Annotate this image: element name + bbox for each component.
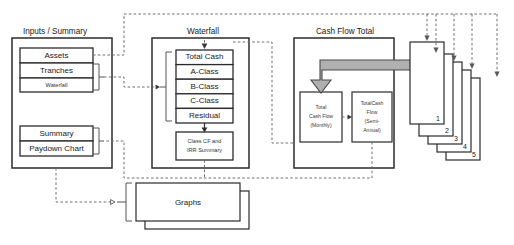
- label-tcf-semi-line3: (Semi-: [365, 118, 380, 124]
- label-tcf-monthly-line3: (Monthly): [310, 122, 332, 128]
- group-title-cash-flow-total: Cash Flow Total: [316, 27, 374, 36]
- stack-number-5: 5: [472, 151, 476, 158]
- group-inputs-summary[interactable]: Inputs / Summary Assets Tranches Waterfa…: [12, 27, 112, 168]
- stack-number-3: 3: [454, 135, 458, 142]
- label-class-cf-irr-line2: IRR Summary: [187, 147, 222, 153]
- arrowhead-rail-drop-1: [424, 36, 429, 41]
- group-title-waterfall: Waterfall: [187, 27, 219, 36]
- label-tcf-semi-line1: TotalCash: [361, 100, 384, 106]
- group-graphs[interactable]: Graphs: [111, 183, 249, 229]
- arrowhead-rail-drop-4: [469, 64, 474, 69]
- label-tcf-semi-line2: Flow: [367, 109, 378, 115]
- label-b-class: B-Class: [190, 82, 218, 91]
- label-a-class: A-Class: [190, 67, 218, 76]
- group-waterfall[interactable]: Waterfall Total Cash A-Class B-Class C-C…: [152, 27, 249, 168]
- group-cash-flow-total[interactable]: Cash Flow Total Total Cash Flow (Monthly…: [294, 27, 394, 168]
- connector-inputs-to-graphs: [56, 168, 110, 202]
- bracket-graphs: [117, 183, 132, 221]
- label-paydown-chart: Paydown Chart: [29, 144, 84, 153]
- label-total-cash: Total Cash: [186, 52, 224, 61]
- label-tcf-monthly-line1: Total: [316, 104, 327, 110]
- scenario-stack[interactable]: 5 4 3 2 1: [410, 42, 480, 160]
- label-class-cf-irr-line1: Class CF and: [188, 138, 222, 144]
- stack-sheet-1[interactable]: [410, 42, 444, 124]
- label-c-class: C-Class: [190, 96, 218, 105]
- label-assets: Assets: [44, 51, 68, 60]
- flow-diagram: Inputs / Summary Assets Tranches Waterfa…: [0, 0, 514, 245]
- label-residual: Residual: [189, 111, 220, 120]
- label-tcf-semi-line4: Annual): [363, 127, 381, 133]
- box-class-cf-irr-summary[interactable]: [176, 132, 233, 160]
- arrowhead-rail-drop-5: [494, 72, 499, 77]
- label-waterfall-input: Waterfall: [46, 82, 68, 88]
- label-tcf-monthly-line2: Cash Flow: [309, 113, 333, 119]
- label-tranches: Tranches: [40, 66, 73, 75]
- label-graphs: Graphs: [175, 198, 201, 207]
- arrowhead-graphs-inbound: [111, 200, 115, 205]
- diagram-canvas: Inputs / Summary Assets Tranches Waterfa…: [0, 0, 514, 245]
- stack-number-2: 2: [445, 127, 449, 134]
- group-title-inputs-summary: Inputs / Summary: [23, 27, 88, 36]
- stack-number-4: 4: [463, 143, 467, 150]
- label-summary: Summary: [39, 129, 73, 138]
- stack-number-1: 1: [436, 115, 440, 122]
